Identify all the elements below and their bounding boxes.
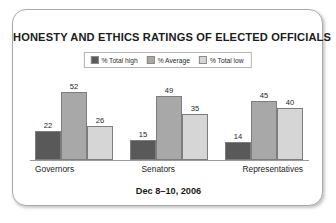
bar-group-senators: 15 49 35: [130, 82, 208, 160]
bar-wrap-senators-average: 49: [156, 82, 182, 160]
bar-representatives-total-low[interactable]: [277, 108, 303, 160]
bar-wrap-representatives-average: 45: [251, 82, 277, 160]
bar-value-senators-average: 49: [156, 86, 182, 95]
bar-governors-average[interactable]: [61, 92, 87, 160]
chart-footer-date: Dec 8–10, 2006: [13, 186, 324, 196]
bar-value-governors-average: 52: [61, 82, 87, 91]
bar-value-representatives-total-low: 40: [277, 98, 303, 107]
category-label-representatives: Representatives: [242, 164, 303, 174]
bar-value-senators-total-high: 15: [130, 130, 156, 139]
bar-wrap-representatives-total-high: 14: [225, 82, 251, 160]
chart-title: HONESTY AND ETHICS RATINGS OF ELECTED OF…: [13, 31, 324, 43]
bar-group-representatives: 14 45 40: [225, 82, 303, 160]
legend-label-total-low: % Total low: [210, 57, 244, 64]
chart-card: HONESTY AND ETHICS RATINGS OF ELECTED OF…: [12, 9, 323, 206]
legend-swatch-total-high: [90, 56, 98, 64]
bar-representatives-average[interactable]: [251, 101, 277, 160]
bar-group-governors: 22 52 26: [35, 82, 113, 160]
bar-governors-total-low[interactable]: [87, 126, 113, 160]
bar-wrap-representatives-total-low: 40: [277, 82, 303, 160]
bar-wrap-senators-total-low: 35: [182, 82, 208, 160]
category-label-governors: Governors: [35, 164, 74, 174]
bar-senators-total-low[interactable]: [182, 114, 208, 160]
category-label-senators: Senators: [142, 164, 176, 174]
bar-senators-total-high[interactable]: [130, 140, 156, 160]
bar-value-representatives-total-high: 14: [225, 132, 251, 141]
plot-area: 22 52 26 15: [35, 82, 303, 160]
bar-governors-total-high[interactable]: [35, 131, 61, 160]
legend-item-total-high[interactable]: % Total high: [90, 56, 137, 64]
bar-representatives-total-high[interactable]: [225, 142, 251, 160]
legend-label-total-high: % Total high: [101, 57, 137, 64]
x-axis-line: [30, 160, 309, 161]
bar-wrap-senators-total-high: 15: [130, 82, 156, 160]
chart-legend: % Total high % Average % Total low: [83, 52, 251, 68]
bar-wrap-governors-total-high: 22: [35, 82, 61, 160]
bar-value-governors-total-high: 22: [35, 121, 61, 130]
bar-groups: 22 52 26 15: [35, 82, 303, 160]
bar-value-governors-total-low: 26: [87, 116, 113, 125]
legend-item-average[interactable]: % Average: [147, 56, 190, 64]
legend-item-total-low[interactable]: % Total low: [199, 56, 244, 64]
bar-wrap-governors-total-low: 26: [87, 82, 113, 160]
legend-swatch-total-low: [199, 56, 207, 64]
legend-label-average: % Average: [158, 57, 190, 64]
bar-wrap-governors-average: 52: [61, 82, 87, 160]
bar-value-representatives-average: 45: [251, 91, 277, 100]
category-labels: Governors Senators Representatives: [35, 164, 303, 174]
chart-screenshot: HONESTY AND ETHICS RATINGS OF ELECTED OF…: [0, 0, 336, 223]
legend-swatch-average: [147, 56, 155, 64]
bar-senators-average[interactable]: [156, 96, 182, 160]
bar-value-senators-total-low: 35: [182, 104, 208, 113]
